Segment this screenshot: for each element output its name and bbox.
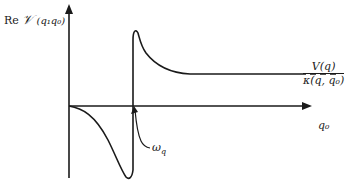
omega-symbol: ω (152, 141, 161, 154)
asymptote-denominator: κ(q, q₀) (303, 74, 344, 87)
y-axis-label-args: (q₁q₀) (33, 15, 65, 26)
curve-negative-dip (69, 31, 300, 179)
y-axis-label-prefix: Re (4, 14, 22, 27)
y-axis-arrow-icon (65, 4, 73, 14)
asymptote-label: V(q) κ(q, q₀) (303, 60, 344, 87)
omega-pointer (135, 110, 150, 148)
x-axis-label: q₀ (318, 119, 329, 132)
x-axis-arrow-icon (302, 102, 312, 110)
y-axis-label-symbol: 𝒱 (22, 12, 33, 27)
omega-label: ωq (152, 141, 166, 156)
omega-arrow-icon (131, 106, 138, 114)
omega-subscript: q (161, 147, 166, 156)
asymptote-numerator: V(q) (303, 60, 344, 74)
y-axis-label: Re 𝒱 (q₁q₀) (4, 12, 65, 28)
